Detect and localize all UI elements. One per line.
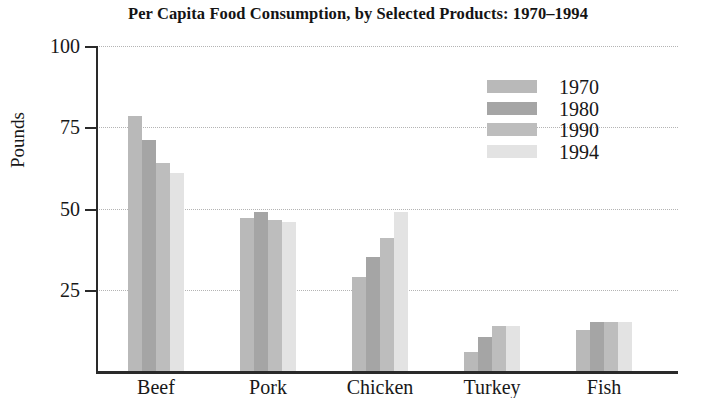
bar [352,277,366,371]
bar [380,238,394,371]
y-axis-title: Pounds [8,112,27,168]
legend-label: 1994 [559,141,599,163]
y-tick-mark [85,46,98,48]
x-tick-label: Turkey [463,377,520,397]
bar [394,212,408,371]
bar [604,322,618,371]
x-tick-label: Beef [137,377,175,397]
x-tick-label: Fish [587,377,621,397]
legend-swatch [487,80,537,93]
bar [156,163,170,371]
y-tick-mark [85,290,98,292]
x-tick-label: Pork [249,377,287,397]
bar [282,222,296,372]
bar [506,326,520,372]
bar [492,326,506,372]
y-tick-label: 50 [60,198,80,218]
chart-legend: 1970198019901994 [487,77,667,163]
legend-item: 1994 [487,142,667,164]
bar [254,212,268,371]
bar [464,352,478,372]
bar-group [240,46,296,371]
y-tick-label: 75 [60,117,80,137]
bar [170,173,184,371]
chart-title: Per Capita Food Consumption, by Selected… [0,4,716,24]
y-tick-mark [85,209,98,211]
bar [618,322,632,371]
bar [268,220,282,371]
bar-group [352,46,408,371]
legend-label: 1980 [559,98,599,120]
bar [128,116,142,371]
y-tick-label: 25 [60,279,80,299]
bar [366,257,380,371]
x-axis-line [96,371,678,374]
bar [142,140,156,371]
legend-swatch [487,123,537,136]
bar [478,337,492,371]
legend-label: 1990 [559,119,599,141]
legend-label: 1970 [559,76,599,98]
y-tick-label: 100 [50,36,80,56]
bar [240,218,254,371]
legend-swatch [487,145,537,158]
bar [576,330,590,371]
legend-item: 1980 [487,99,667,121]
bar [590,322,604,371]
legend-item: 1990 [487,120,667,142]
legend-swatch [487,102,537,115]
bar-group [128,46,184,371]
y-tick-mark [85,127,98,129]
legend-item: 1970 [487,77,667,99]
x-tick-label: Chicken [347,377,414,397]
